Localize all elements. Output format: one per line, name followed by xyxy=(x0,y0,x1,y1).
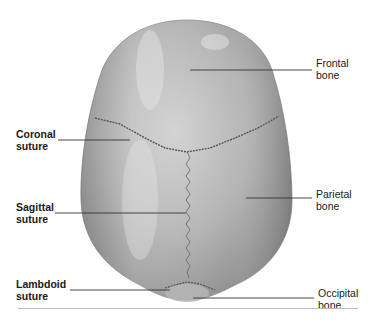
label-coronal-suture: Coronal suture xyxy=(16,128,56,152)
occipital-region xyxy=(165,284,209,302)
label-sagittal-suture: Sagittal suture xyxy=(16,201,54,225)
label-frontal-bone: Frontal bone xyxy=(316,57,349,81)
label-lambdoid-suture: Lambdoid suture xyxy=(16,278,66,302)
label-parietal-bone: Parietal bone xyxy=(316,188,352,212)
skull-superior-view-diagram: Frontal bone Coronal suture Parietal bon… xyxy=(0,0,374,327)
bottom-divider xyxy=(18,308,358,309)
